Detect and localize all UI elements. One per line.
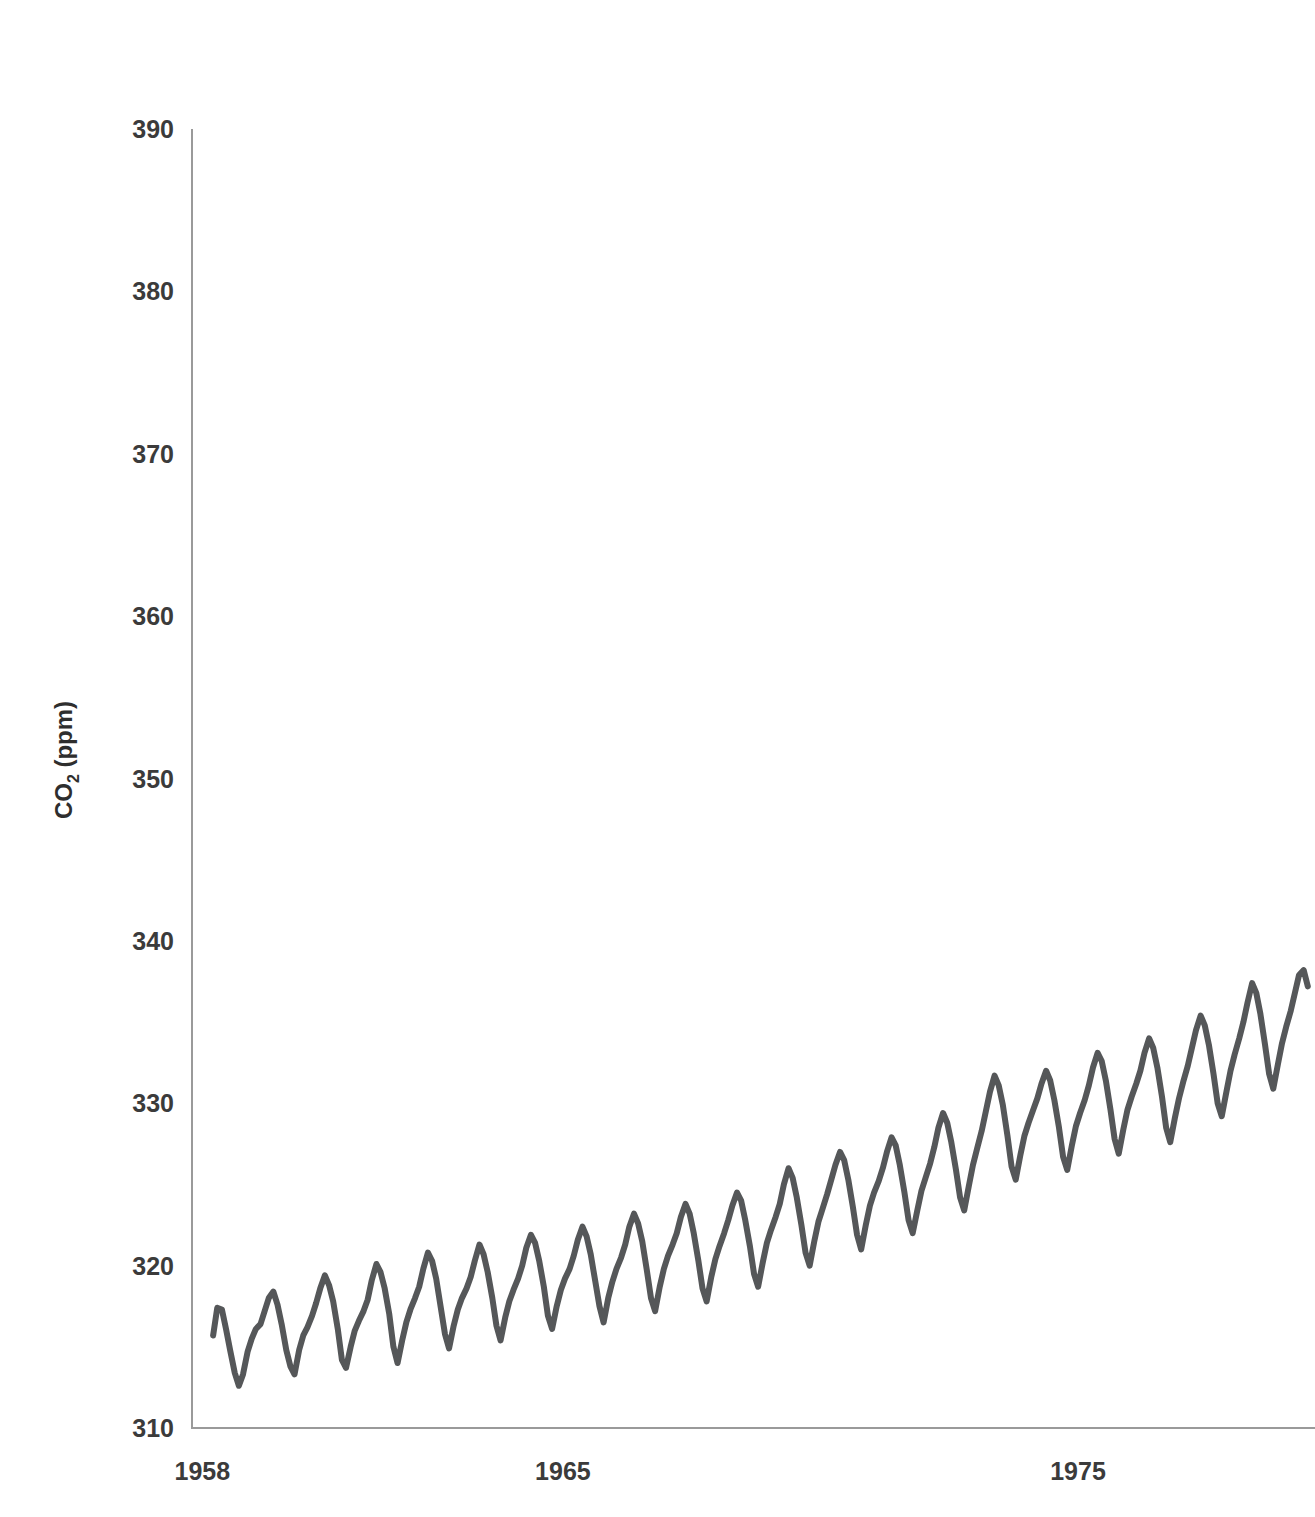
y-tick-label: 370: [132, 440, 174, 468]
y-tick-label: 310: [132, 1414, 174, 1442]
co2-line-chart: 310320330340350360370380390 195819651975…: [0, 0, 1315, 1517]
y-tick-label: 320: [132, 1252, 174, 1280]
y-tick-label: 340: [132, 927, 174, 955]
y-tick-label: 330: [132, 1089, 174, 1117]
y-tick-label: 390: [132, 115, 174, 143]
y-axis-title-units: (ppm): [50, 701, 77, 774]
y-axis-title-subscript: 2: [65, 774, 82, 783]
x-tick-label: 1965: [535, 1457, 591, 1485]
y-tick-label: 350: [132, 765, 174, 793]
x-tick-label: 1975: [1050, 1457, 1106, 1485]
x-tick-label: 1958: [174, 1457, 230, 1485]
y-tick-label: 380: [132, 277, 174, 305]
y-axis-title-main: CO: [50, 783, 77, 819]
y-tick-label: 360: [132, 602, 174, 630]
chart-page: 310320330340350360370380390 195819651975…: [0, 0, 1315, 1517]
